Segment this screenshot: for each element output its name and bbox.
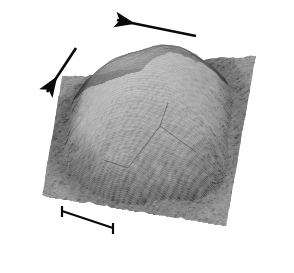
stm-surface-plot — [0, 0, 294, 273]
stm-figure — [0, 0, 294, 273]
